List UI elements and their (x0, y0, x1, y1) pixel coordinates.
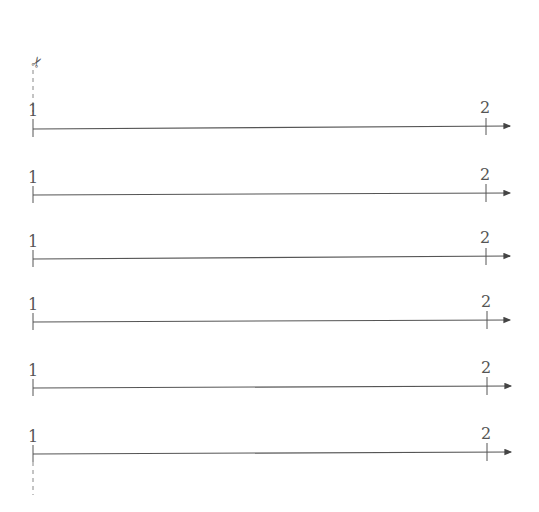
line-3-end-label: 2 (480, 230, 490, 246)
number-line-3 (33, 248, 510, 267)
number-line-1 (33, 118, 510, 137)
number-line-4 (33, 311, 510, 330)
number-lines-canvas (0, 0, 539, 512)
line-6-end-label: 2 (481, 426, 491, 442)
line-5-start-label: 1 (28, 363, 38, 379)
number-line-5 (33, 377, 511, 396)
line-2-end-label: 2 (480, 167, 490, 183)
number-line-2 (33, 184, 510, 203)
line-4-start-label: 1 (28, 297, 38, 313)
line-4-end-label: 2 (481, 294, 491, 310)
line-1-end-label: 2 (480, 100, 490, 116)
line-2-start-label: 1 (28, 170, 38, 186)
line-6-start-label: 1 (28, 429, 38, 445)
line-5-end-label: 2 (481, 360, 491, 376)
line-3-start-label: 1 (28, 234, 38, 250)
number-line-6 (33, 443, 511, 462)
line-1-start-label: 1 (28, 103, 38, 119)
